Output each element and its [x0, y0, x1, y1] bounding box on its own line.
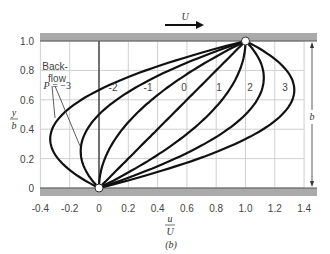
series-label: -2 — [109, 82, 118, 93]
backflow-label: flow — [48, 73, 67, 84]
x-tick-label: -0.4 — [32, 203, 50, 214]
caption: (b) — [165, 239, 177, 251]
y-axis-label-num: y — [11, 107, 17, 118]
x-tick-label: 0.2 — [121, 203, 135, 214]
series-label: 1 — [216, 82, 222, 93]
x-tick-label: 0.6 — [180, 203, 194, 214]
y-tick-label: 0.2 — [20, 154, 34, 165]
y-tick-label: 1.0 — [20, 36, 34, 47]
x-tick-label: -0.2 — [61, 203, 79, 214]
velocity-profile-chart: -0.4-0.200.20.40.60.81.01.21.400.20.40.6… — [0, 0, 330, 254]
x-axis-label-den: U — [166, 226, 174, 237]
x-tick-label: 0.4 — [151, 203, 165, 214]
x-tick-label: 0 — [96, 203, 102, 214]
velocity-profile-line — [99, 41, 246, 188]
y-tick-label: 0 — [28, 183, 34, 194]
series-label: 2 — [247, 82, 253, 93]
velocity-profile-line — [99, 41, 264, 188]
gap-arrowhead-bottom — [310, 181, 314, 187]
velocity-arrowhead — [196, 21, 204, 29]
x-axis-label-num: u — [168, 213, 173, 224]
backflow-label: Back- — [42, 61, 68, 72]
series-label: 3 — [282, 82, 288, 93]
origin-marker — [95, 184, 103, 192]
x-tick-label: 1.2 — [268, 203, 282, 214]
x-tick-label: 1.0 — [239, 203, 253, 214]
velocity-label: U — [181, 11, 189, 22]
top-plate — [40, 33, 317, 41]
y-tick-label: 0.4 — [20, 124, 34, 135]
x-tick-label: 1.4 — [297, 203, 311, 214]
top-marker — [242, 37, 250, 45]
y-axis-label-den: b — [12, 120, 17, 131]
velocity-profile-line — [81, 41, 246, 188]
gap-arrowhead-top — [310, 42, 314, 48]
series-label: 0 — [181, 82, 187, 93]
y-tick-label: 0.6 — [20, 95, 34, 106]
bottom-plate — [40, 188, 317, 196]
x-tick-label: 0.8 — [209, 203, 223, 214]
series-label: -1 — [144, 82, 153, 93]
gap-label: b — [310, 111, 315, 122]
y-tick-label: 0.8 — [20, 65, 34, 76]
backflow-arrow — [55, 86, 80, 146]
